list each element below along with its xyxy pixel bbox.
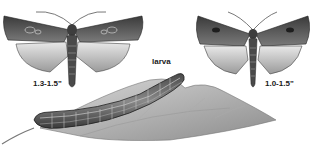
right-moth: [196, 12, 309, 87]
right-moth-size-label: 1.0-1.5": [265, 80, 294, 88]
larva-label: larva: [152, 58, 171, 66]
left-moth-size-label: 1.3-1.5": [33, 80, 62, 88]
moth-larva-illustration: [0, 0, 334, 148]
leaf: [2, 79, 276, 144]
left-moth: [4, 12, 143, 87]
